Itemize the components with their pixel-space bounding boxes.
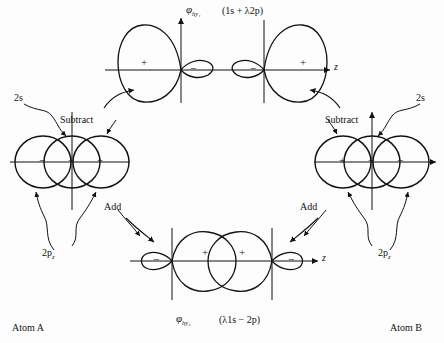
atom-b-2s-label: 2s — [416, 93, 425, 103]
atom-a-2p-label: 2pz — [42, 248, 55, 261]
bottom-formula: (λ1s − 2p) — [219, 315, 260, 325]
bottom-right-small-lobe-sign: − — [288, 254, 294, 265]
top-orbital-label: φhy₁ — [186, 4, 201, 18]
bottom-axis-label-z: z — [322, 253, 326, 263]
atom-b-sign-1: + — [368, 155, 374, 166]
atom-b-subtract-arrow — [310, 90, 340, 108]
top-axis-label-z: z — [334, 62, 338, 72]
diagram-vector-layer — [0, 0, 444, 343]
atom-b-name: Atom B — [390, 323, 422, 333]
bottom-right-lobe-sign: + — [239, 247, 245, 258]
atom-b-2p-label: 2pz — [378, 248, 391, 261]
bottom-left-small-lobe-sign: − — [153, 254, 159, 265]
atom-b-annotation-arrows — [304, 104, 420, 250]
atom-a-subtract-label: Subtract — [60, 115, 93, 125]
top-right-small-lobe-sign: − — [250, 63, 256, 74]
top-left-lobe-sign: + — [141, 57, 147, 68]
top-left-small-lobe-sign: − — [190, 63, 196, 74]
bottom-left-lobe-sign: + — [202, 247, 208, 258]
atom-b-add-label: Add — [300, 202, 317, 212]
atom-a-sign-1: + — [68, 155, 74, 166]
atom-a-add-label: Add — [104, 202, 121, 212]
atom-a-add-arrow — [126, 218, 154, 242]
atom-b-sign-0: + — [339, 155, 345, 166]
atom-b-add-arrow — [290, 218, 318, 242]
atom-a-sign-0: − — [39, 155, 45, 166]
atom-b-subtract-label: Subtract — [325, 115, 358, 125]
atom-a-2s-label: 2s — [14, 93, 23, 103]
atom-a-subtract-arrow — [104, 90, 134, 108]
top-panel-axes — [105, 18, 330, 103]
atom-a-sign-2: + — [97, 155, 103, 166]
atom-a-name: Atom A — [12, 323, 44, 333]
atom-a-annotation-arrows — [24, 104, 140, 250]
bottom-orbital-label: φhy₂ — [176, 313, 191, 327]
top-formula: (1s + λ2p) — [222, 6, 263, 16]
figure-canvas: φhy₁ (1s + λ2p) z + − + − φhy₂ (λ1s − 2p… — [0, 0, 444, 343]
atom-b-sign-2: − — [397, 155, 403, 166]
top-right-lobe-sign: + — [300, 57, 306, 68]
